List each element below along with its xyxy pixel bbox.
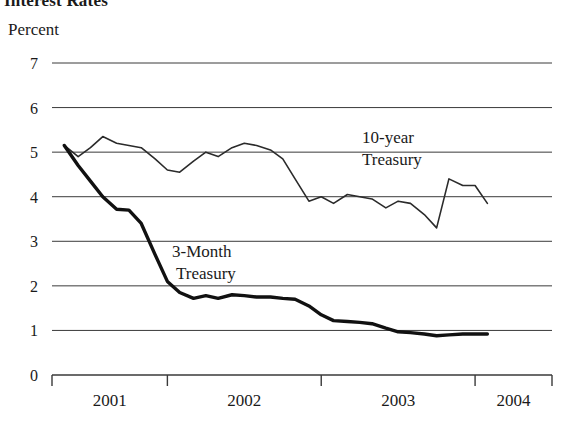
y-tick-label: 5 bbox=[30, 144, 38, 161]
y-tick-label: 2 bbox=[30, 278, 38, 295]
y-tick-label: 1 bbox=[30, 322, 38, 339]
y-tick-label: 0 bbox=[30, 367, 38, 384]
annotation-3-month-line1: 3-Month bbox=[172, 242, 232, 261]
annotation-10-year-line2: Treasury bbox=[362, 150, 422, 169]
x-tick-label: 2004 bbox=[497, 391, 532, 410]
series-lines bbox=[64, 137, 487, 336]
x-tick-label: 2003 bbox=[381, 391, 415, 410]
x-axis bbox=[52, 375, 552, 386]
annotation-3-month-line2: Treasury bbox=[176, 264, 236, 283]
annotation-10-year-line1: 10-year bbox=[362, 128, 414, 147]
series-line-10-year-treasury bbox=[64, 137, 487, 228]
y-tick-label: 4 bbox=[30, 189, 38, 206]
gridlines bbox=[52, 63, 552, 375]
y-tick-label: 6 bbox=[30, 100, 38, 117]
y-tick-label: 7 bbox=[30, 55, 38, 72]
interest-rates-line-chart: 01234567 2001200220032004 10-year Treasu… bbox=[0, 0, 566, 427]
series-line-3-month-treasury bbox=[64, 145, 487, 335]
chart-page: Interest Rates Percent 01234567 20012002… bbox=[0, 0, 566, 427]
x-tick-label: 2002 bbox=[227, 391, 261, 410]
y-tick-label: 3 bbox=[30, 233, 38, 250]
x-tick-label: 2001 bbox=[93, 391, 127, 410]
x-tick-labels: 2001200220032004 bbox=[93, 391, 531, 410]
y-tick-labels: 01234567 bbox=[30, 55, 38, 384]
